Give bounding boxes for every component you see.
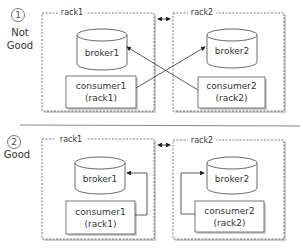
scenario-2-number-digit: 2 <box>9 136 19 149</box>
scenario-1-verdict-line1: Not <box>5 26 35 39</box>
scenario-1-verdict-line2: Good <box>3 39 37 52</box>
scenario-1-consumer2-label: consumer2 <box>198 81 265 92</box>
scenario-2-consumer2-label: consumer2 <box>195 206 264 217</box>
scenario-1-broker1-label: broker1 <box>77 48 127 59</box>
scenario-2-consumer1-label: consumer1 <box>66 207 135 218</box>
scenario-2-broker2-label: broker2 <box>207 174 257 185</box>
scenario-2-consumer2-rack: (rack2) <box>195 218 264 229</box>
scenario-2-consumer1-rack: (rack1) <box>66 219 135 230</box>
scenario-2-rack2-label: rack2 <box>188 135 216 146</box>
scenario-1-consumer1-rack: (rack1) <box>66 93 136 104</box>
scenario-1-consumer1-label: consumer1 <box>66 81 136 92</box>
scenario-1-number-digit: 1 <box>13 9 23 22</box>
scenario-1-rack2-label: rack2 <box>188 7 216 18</box>
scenario-2-verdict: Good <box>2 148 32 161</box>
section-divider <box>20 125 300 126</box>
scenario-2-rack1-label: rack1 <box>56 134 86 145</box>
scenario-1-broker2-label: broker2 <box>207 46 257 57</box>
scenario-1-rack1-label: rack1 <box>58 7 86 18</box>
scenario-2-broker1-label: broker1 <box>75 174 125 185</box>
scenario-1-consumer2-rack: (rack2) <box>198 93 265 104</box>
